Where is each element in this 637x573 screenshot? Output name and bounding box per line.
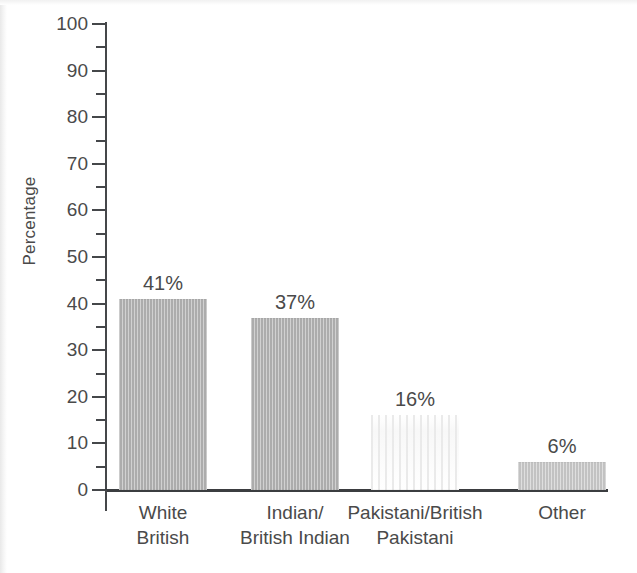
y-tick-label: 80: [36, 106, 88, 128]
y-tick-major: [92, 489, 105, 491]
y-tick-minor: [96, 419, 105, 421]
y-tick-label: 60: [36, 199, 88, 221]
y-tick-label: 10: [36, 432, 88, 454]
y-tick-major: [92, 256, 105, 258]
y-tick-major: [92, 163, 105, 165]
y-tick-label: 40: [36, 293, 88, 315]
y-tick-major: [92, 303, 105, 305]
y-tick-label: 0: [36, 479, 88, 501]
x-category-label: Other: [467, 500, 637, 525]
bar-value-label: 37%: [235, 291, 355, 314]
y-tick-major: [92, 396, 105, 398]
x-category-line1: Pakistani/British: [347, 502, 482, 523]
bar: [251, 318, 339, 490]
y-tick-minor: [96, 46, 105, 48]
y-tick-minor: [96, 326, 105, 328]
y-tick-major: [92, 442, 105, 444]
y-tick-minor: [96, 140, 105, 142]
y-tick-major: [92, 116, 105, 118]
x-category-line1: White: [139, 502, 188, 523]
bar-value-label: 41%: [103, 272, 223, 295]
bar: [518, 462, 606, 490]
y-axis-line: [105, 22, 107, 511]
y-tick-label: 100: [36, 13, 88, 35]
y-tick-minor: [96, 186, 105, 188]
y-tick-minor: [96, 466, 105, 468]
bar: [371, 415, 459, 490]
bar: [119, 299, 207, 490]
y-tick-minor: [96, 93, 105, 95]
y-tick-minor: [96, 233, 105, 235]
bar-chart: Percentage 1009080706050403020100 41%37%…: [0, 0, 637, 573]
bar-value-label: 16%: [355, 388, 475, 411]
y-tick-label: 90: [36, 60, 88, 82]
y-tick-major: [92, 349, 105, 351]
y-tick-label: 70: [36, 153, 88, 175]
x-category-line2: Pakistani: [320, 525, 510, 550]
y-tick-major: [92, 209, 105, 211]
y-tick-major: [92, 23, 105, 25]
y-tick-minor: [96, 373, 105, 375]
y-tick-label: 20: [36, 386, 88, 408]
x-category-line1: Indian/: [266, 502, 323, 523]
x-category-line1: Other: [538, 502, 586, 523]
y-tick-label: 50: [36, 246, 88, 268]
bar-value-label: 6%: [502, 435, 622, 458]
y-tick-label: 30: [36, 339, 88, 361]
y-tick-major: [92, 70, 105, 72]
